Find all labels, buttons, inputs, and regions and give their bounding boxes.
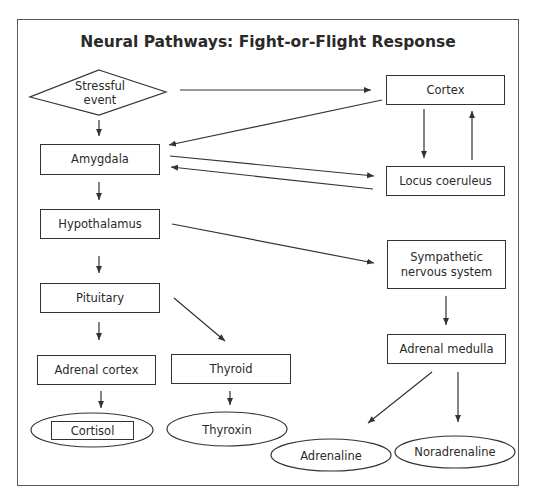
arrow-amygdala-to-locus	[170, 156, 374, 176]
node-thyroid: Thyroid	[171, 354, 291, 384]
node-sympathetic: Sympathetic nervous system	[387, 240, 506, 289]
arrow-medulla-to-adrenaline	[368, 372, 432, 423]
arrow-hypothalamus-to-sympathetic	[172, 224, 374, 263]
thyroid-label: Thyroid	[209, 362, 252, 377]
locus-coeruleus-label: Locus coeruleus	[399, 174, 492, 189]
sympathetic-line1: Sympathetic	[410, 250, 483, 265]
node-adrenal-medulla: Adrenal medulla	[387, 334, 506, 364]
arrow-pituitary-to-thyroid	[174, 298, 225, 341]
node-amygdala: Amygdala	[40, 144, 160, 175]
stressful-event-line2: event	[84, 93, 117, 107]
hypothalamus-label: Hypothalamus	[58, 217, 141, 232]
adrenal-cortex-label: Adrenal cortex	[55, 363, 139, 378]
node-cortex: Cortex	[386, 75, 505, 105]
sympathetic-line2: nervous system	[401, 265, 492, 280]
amygdala-label: Amygdala	[71, 152, 129, 167]
pituitary-label: Pituitary	[76, 291, 124, 306]
node-adrenal-cortex: Adrenal cortex	[37, 355, 156, 385]
noradrenaline-label: Noradrenaline	[395, 442, 515, 461]
adrenaline-label: Adrenaline	[271, 446, 391, 465]
stressful-event-line1: Stressful	[75, 79, 125, 93]
stressful-event-label: Stressful event	[60, 72, 140, 114]
node-locus-coeruleus: Locus coeruleus	[386, 166, 505, 196]
cortex-label: Cortex	[427, 83, 465, 98]
node-hypothalamus: Hypothalamus	[40, 209, 160, 239]
arrow-cortex-to-amygdala	[169, 100, 382, 145]
adrenal-medulla-label: Adrenal medulla	[399, 342, 493, 357]
arrow-locus-to-amygdala	[171, 167, 373, 189]
thyroxin-label: Thyroxin	[167, 420, 287, 439]
cortisol-label: Cortisol	[51, 421, 134, 440]
node-pituitary: Pituitary	[40, 283, 160, 313]
